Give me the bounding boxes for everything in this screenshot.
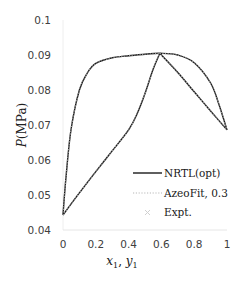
series-line-azeofit-0-3 [63, 53, 160, 215]
legend-label: NRTL(opt) [164, 167, 220, 179]
legend-item-azeofit: AzeoFit, 0.3 [133, 187, 228, 199]
x-tick-label: 0.2 [87, 238, 104, 250]
y-axis-label: P(MPa) [15, 103, 29, 148]
series-line-azeofit-0-3 [63, 53, 160, 215]
x-tick-label: 0 [60, 238, 67, 250]
y-tick-label: 0.08 [28, 84, 51, 96]
vle-pxy-chart: 0.040.050.060.070.080.090.1 00.20.40.60.… [0, 0, 242, 284]
legend-label: AzeoFit, 0.3 [163, 187, 228, 199]
y-tick-label: 0.05 [28, 189, 51, 201]
y-tick-label: 0.1 [34, 14, 51, 26]
legend-item-nrtl: NRTL(opt) [133, 167, 220, 179]
x-tick-label: 0.4 [120, 238, 137, 250]
legend: NRTL(opt) AzeoFit, 0.3 Expt. [133, 167, 228, 218]
series-line-nrtl-opt- [63, 53, 160, 215]
series-line-nrtl-opt- [63, 53, 160, 215]
y-axis-ticks: 0.040.050.060.070.080.090.1 [28, 14, 52, 236]
y-tick-label: 0.06 [28, 154, 52, 166]
x-axis-ticks: 00.20.40.60.81 [60, 238, 231, 250]
x-tick-label: 0.8 [186, 238, 203, 250]
y-tick-label: 0.07 [28, 119, 51, 131]
legend-item-expt: Expt. [145, 206, 192, 218]
x-tick-label: 1 [224, 238, 231, 250]
legend-label: Expt. [164, 206, 192, 218]
x-marker-icon [145, 210, 150, 215]
y-tick-label: 0.09 [28, 49, 51, 61]
x-axis-label: x1, y1 [106, 254, 137, 270]
y-tick-label: 0.04 [28, 224, 52, 236]
x-tick-label: 0.6 [153, 238, 170, 250]
